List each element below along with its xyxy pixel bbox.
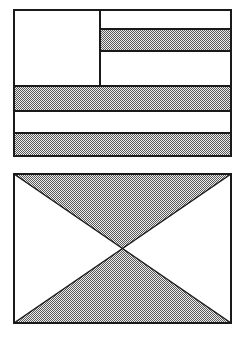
full-stripe-shaded-3 [14, 133, 231, 156]
striped-flag-diagram [14, 10, 231, 156]
crossed-diagonals-diagram [14, 174, 231, 323]
canton [14, 10, 100, 86]
full-stripe-white-3 [14, 111, 231, 133]
fly-stripe-white-2 [100, 51, 231, 86]
fly-stripe-white-top [100, 10, 231, 29]
figure-root: Flag with canton and horizontal stripes … [0, 0, 244, 338]
full-stripe-shaded-2 [14, 86, 231, 111]
fly-stripe-shaded-1 [100, 29, 231, 51]
figure-canvas [0, 0, 244, 338]
